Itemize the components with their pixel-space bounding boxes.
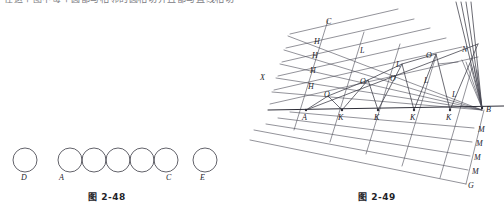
fig-2-49-label-L-1: L — [359, 46, 365, 55]
scanned-page: 在这个图中每个圆都与相邻的圆相切并且都与直线相切 D A C E 图 2-48 — [0, 0, 504, 211]
fig-2-49-label-M-2: M — [475, 139, 484, 148]
fig-2-49-lower-parallels — [250, 112, 474, 184]
fig-2-49-label-L-4: L — [451, 90, 457, 99]
fig-2-49-ruling-lines — [270, 9, 478, 104]
fig-2-49-label-M-1: M — [477, 125, 486, 134]
fig-2-48-label-C: C — [166, 173, 172, 182]
fig-2-49-label-X: X — [259, 73, 266, 82]
fig-2-48-label-D: D — [20, 173, 27, 182]
figure-2-49-caption: 图 2-49 — [358, 190, 396, 203]
fig-2-48-circle-chain — [58, 148, 178, 172]
fig-2-49-convergent-fan — [438, 2, 482, 108]
fig-2-49-label-O-2: O — [360, 77, 366, 86]
fig-2-49-label-M-4: M — [471, 167, 480, 176]
page-header-text: 在这个图中每个圆都与相邻的圆相切并且都与直线相切 — [4, 0, 254, 4]
figure-2-48: D A C E — [0, 130, 240, 190]
fig-2-49-label-H-1: H — [313, 37, 321, 46]
fig-2-49-label-C: C — [326, 17, 332, 26]
figure-2-49: X C H H H H A K K K K O O O O L L L L N … — [250, 0, 504, 190]
fig-2-49-label-K-2: K — [373, 113, 380, 122]
fig-2-49-label-H-4: H — [307, 82, 315, 91]
figure-2-48-caption: 图 2-48 — [88, 190, 126, 203]
fig-2-48-label-A: A — [58, 173, 64, 182]
fig-2-49-label-K-1: K — [337, 113, 344, 122]
fig-2-49-label-K-3: K — [409, 113, 416, 122]
fig-2-49-label-L-2: L — [395, 60, 401, 69]
fig-2-49-label-O-3: O — [390, 74, 396, 83]
fig-2-49-label-N: N — [461, 45, 468, 54]
fig-2-48-circle-E — [193, 148, 217, 172]
fig-2-49-label-B: B — [486, 105, 491, 114]
fig-2-48-circle-D — [13, 148, 37, 172]
fig-2-49-label-M-3: M — [473, 153, 482, 162]
fig-2-48-label-E: E — [199, 173, 205, 182]
fig-2-49-label-O-1: O — [324, 90, 330, 99]
fig-2-49-label-K-4: K — [445, 113, 452, 122]
fig-2-49-label-A: A — [301, 113, 307, 122]
fig-2-49-label-O-4: O — [426, 51, 432, 60]
fig-2-49-label-G: G — [468, 181, 474, 190]
fig-2-49-label-L-3: L — [423, 76, 429, 85]
